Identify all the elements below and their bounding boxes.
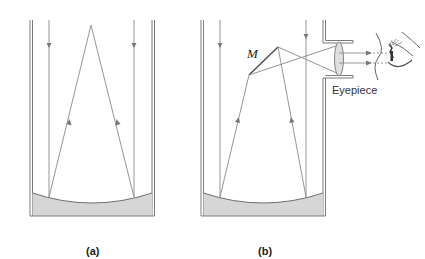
eyepiece-label: Eyepiece — [332, 84, 377, 96]
panel-a-reflector — [30, 20, 155, 216]
incoming-rays-b — [220, 20, 306, 197]
panel-a-label: (a) — [86, 245, 99, 257]
eye-icon — [375, 32, 420, 80]
incoming-rays-a — [49, 20, 134, 197]
mirror-m-label: M — [247, 46, 258, 62]
panel-b-newtonian — [201, 20, 420, 216]
panel-b-label: (b) — [258, 245, 272, 257]
eyepiece-lens — [335, 42, 344, 76]
reflected-rays-a — [49, 25, 134, 197]
primary-mirror-b — [204, 193, 324, 216]
telescope-diagram — [0, 0, 425, 259]
ray-arrows-a — [47, 43, 137, 48]
rays-to-eyepiece — [249, 45, 339, 75]
